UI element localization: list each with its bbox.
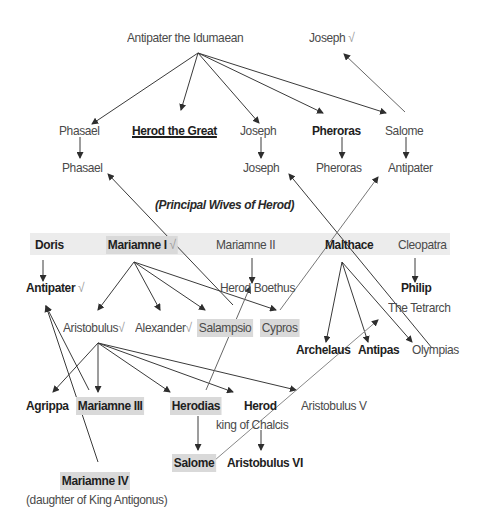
node-herod-chalcis-title: king of Chalcis [216, 417, 288, 433]
diagram-title: (Principal Wives of Herod) [155, 197, 294, 213]
node-herod-chalcis: Herod [244, 398, 277, 414]
node-joseph: Joseph [240, 123, 276, 139]
node-salampsio: Salampsio [197, 319, 253, 337]
node-cleopatra: Cleopatra [398, 237, 447, 253]
node-herod-the-great: Herod the Great [132, 123, 217, 139]
node-label: Alexander [135, 320, 186, 335]
node-agrippa: Agrippa [26, 398, 69, 414]
node-pheroras: Pheroras [312, 123, 361, 139]
family-tree-diagram: Antipater the Idumaean Joseph√ Phasael H… [0, 0, 485, 532]
node-mariamne-ii: Mariamne II [216, 237, 275, 253]
node-archelaus: Archelaus [296, 342, 351, 358]
node-olympias: Olympias [412, 342, 459, 358]
node-herodias: Herodias [170, 397, 222, 415]
node-antipas: Antipas [358, 342, 399, 358]
node-aristobulus-vi: Aristobulus VI [227, 455, 303, 471]
node-phasael: Phasael [59, 123, 100, 139]
node-doris: Doris [35, 237, 64, 253]
node-label: Aristobulus [63, 320, 118, 335]
node-antipater-the-idumaean: Antipater the Idumaean [127, 30, 243, 46]
node-pheroras-jr: Pheroras [316, 160, 362, 176]
checkmark-icon: √ [78, 280, 84, 295]
node-joseph-top: Joseph√ [309, 30, 354, 46]
node-joseph-jr: Joseph [243, 160, 279, 176]
node-mariamne-iv-note: (daughter of King Antigonus) [26, 492, 167, 508]
node-philip: Philip [401, 280, 431, 296]
node-salome: Salome [385, 123, 423, 139]
node-phasael-jr: Phasael [62, 160, 103, 176]
checkmark-icon: √ [169, 237, 175, 252]
node-mariamne-i: Mariamne I√ [106, 236, 177, 254]
node-alexander: Alexander√ [135, 320, 192, 336]
node-antipater-salome-son: Antipater [388, 160, 433, 176]
node-philip-title: The Tetrarch [388, 300, 451, 316]
node-mariamne-iv: Mariamne IV [60, 472, 130, 490]
checkmark-icon: √ [118, 320, 124, 335]
connector-lines [0, 0, 485, 532]
node-antipater-herod-son: Antipater√ [26, 280, 84, 296]
node-aristobulus-v: Aristobulus V [301, 398, 367, 414]
node-label: Mariamne I [108, 237, 167, 252]
node-malthace: Malthace [325, 237, 373, 253]
node-salome-jr: Salome [172, 454, 216, 472]
node-label: Antipater [26, 280, 75, 295]
checkmark-icon: √ [348, 30, 354, 45]
node-herod-boethus: Herod Boethus [220, 280, 295, 296]
checkmark-icon: √ [186, 320, 192, 335]
node-mariamne-iii: Mariamne III [76, 397, 144, 415]
node-aristobulus: Aristobulus√ [63, 320, 124, 336]
node-cypros: Cypros [260, 319, 299, 337]
node-label: Joseph [309, 30, 345, 45]
